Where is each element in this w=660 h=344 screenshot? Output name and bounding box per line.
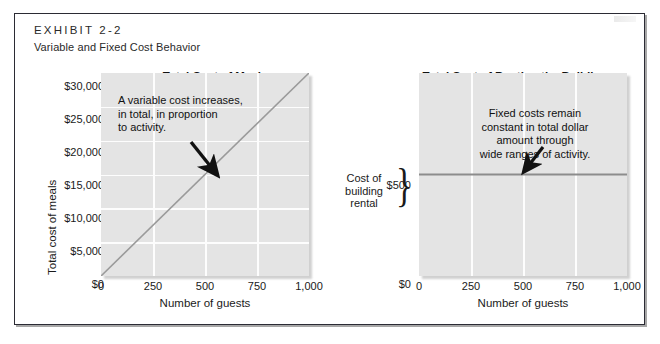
chart1-gridline-y-15000 [101, 175, 309, 177]
chart1-x-axis-title: Number of guests [125, 297, 285, 309]
chart1-ytick-15000: $15,000 [39, 179, 104, 191]
chart1-ytick-25000: $25,000 [39, 113, 104, 125]
chart2-ytick-500: $500 [349, 179, 411, 191]
exhibit-subtitle: Variable and Fixed Cost Behavior [34, 41, 200, 53]
chart1-ytick-20000: $20,000 [39, 146, 104, 158]
chart1-gridline-y-20000 [101, 141, 309, 143]
chart2-xtick-500: 500 [503, 280, 543, 292]
chart1-ytick-5000: $5,000 [39, 245, 104, 257]
chart2-xtick-0: 0 [399, 280, 439, 292]
chart1-gridline-y-10000 [101, 208, 309, 210]
chart2-gridline-x-500 [523, 73, 525, 276]
chart1-xtick-750: 750 [237, 280, 277, 292]
chart1-y-axis-title: Total cost of meals [46, 180, 58, 275]
chart1-xtick-250: 250 [133, 280, 173, 292]
chart2-annotation-text: Fixed costs remain constant in total dol… [447, 107, 623, 161]
chart1-xtick-1000: 1,000 [289, 280, 329, 292]
chart1-annotation-text: A variable cost increases, in total, in … [118, 94, 243, 135]
chart1-ytick-10000: $10,000 [39, 212, 104, 224]
page-edge-smudge [614, 16, 636, 22]
chart1-xtick-500: 500 [185, 280, 225, 292]
chart2-gridline-x-250 [471, 73, 473, 276]
chart2-plot-area [419, 73, 627, 276]
chart1-xtick-0: 0 [81, 280, 121, 292]
exhibit-frame: Total Cost of Meals Total cost of meals … [14, 13, 645, 325]
chart2-gridline-x-750 [575, 73, 577, 276]
chart1-gridline-y-5000 [101, 242, 309, 244]
exhibit-label: EXHIBIT 2-2 [34, 24, 123, 36]
chart2-xtick-750: 750 [555, 280, 595, 292]
chart2-x-axis-title: Number of guests [443, 297, 603, 309]
chart2-xtick-1000: 1,000 [607, 280, 647, 292]
chart1-ytick-30000: $30,000 [39, 80, 104, 92]
chart2-xtick-250: 250 [451, 280, 491, 292]
